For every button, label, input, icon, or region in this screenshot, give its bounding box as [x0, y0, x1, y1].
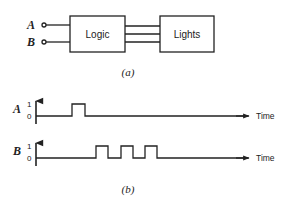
- logic-block-label: Logic: [86, 29, 110, 40]
- waveform-b-signal-label: B: [12, 144, 21, 158]
- input-b-terminal-icon: [42, 40, 46, 44]
- waveform-a-signal-label: A: [12, 102, 21, 116]
- waveform-a-time-label: Time: [256, 111, 275, 121]
- waveform-a: A 1 0 Time: [12, 100, 275, 124]
- caption-a: (a): [122, 66, 135, 79]
- input-a-label: A: [26, 18, 35, 32]
- waveform-b-time-label: Time: [256, 153, 275, 163]
- caption-b: (b): [122, 183, 135, 196]
- input-b-label: B: [26, 35, 35, 49]
- waveform-a-low-label: 0: [27, 112, 32, 121]
- waveform-b: B 1 0 Time: [12, 142, 275, 166]
- input-a-terminal-icon: [42, 23, 46, 27]
- lights-block-label: Lights: [174, 29, 201, 40]
- figure: A B Logic Lights (a) A 1 0 Time B 1 0: [0, 0, 293, 201]
- waveform-b-low-label: 0: [27, 154, 32, 163]
- waveform-b-signal: [36, 146, 248, 158]
- waveform-a-signal: [36, 104, 248, 116]
- waveform-a-high-label: 1: [27, 100, 32, 109]
- waveform-b-high-label: 1: [27, 142, 32, 151]
- block-diagram: A B Logic Lights: [26, 16, 214, 52]
